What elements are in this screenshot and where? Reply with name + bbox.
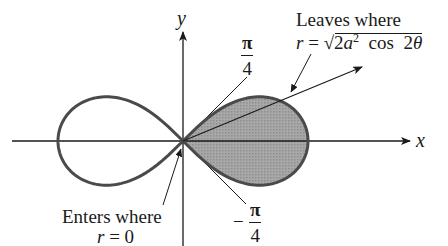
radical-sign: √ xyxy=(324,32,334,53)
enters-formula: r = 0 xyxy=(97,227,134,246)
negative-sign: − xyxy=(233,212,244,231)
fraction-bar xyxy=(241,55,253,56)
radicand-theta: θ xyxy=(413,32,422,53)
equals-sign: = xyxy=(303,32,323,53)
angle-numerator: π xyxy=(241,33,253,52)
vinculum xyxy=(335,33,423,34)
angle-denominator: 4 xyxy=(250,226,260,245)
radicand-cos: cos 2 xyxy=(359,32,413,53)
leaves-pointer-arrow xyxy=(291,54,311,92)
radicand-coef: 2 xyxy=(334,32,344,53)
enters-label: Enters where xyxy=(62,207,162,226)
angle-label-pi-over-4: π 4 xyxy=(241,33,253,78)
x-axis-label: x xyxy=(416,130,425,150)
angle-numerator: π xyxy=(249,200,261,219)
y-axis-label: y xyxy=(177,8,186,28)
leaves-formula: r = √2a2 cos 2θ xyxy=(296,32,422,52)
equals-zero: = 0 xyxy=(104,226,134,246)
radicand-a: a xyxy=(344,32,354,53)
square-root: √2a2 cos 2θ xyxy=(324,32,423,52)
angle-denominator: 4 xyxy=(242,59,252,78)
leaves-label: Leaves where xyxy=(296,10,401,29)
fraction-bar xyxy=(249,222,261,223)
angle-label-neg-pi-over-4: π 4 xyxy=(249,200,261,245)
